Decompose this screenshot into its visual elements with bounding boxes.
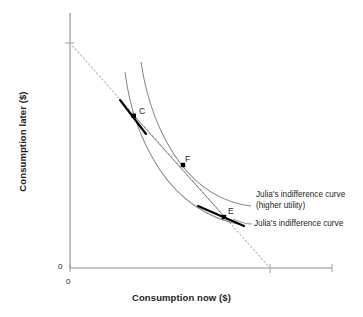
x-axis-origin-label: 0	[66, 277, 70, 286]
x-axis-title: Consumption now ($)	[0, 292, 363, 303]
tangent-segment-e	[198, 206, 244, 226]
chord-line-c-f-e	[136, 118, 231, 224]
point-label-c: C	[139, 106, 145, 116]
indifference-curve-figure: Consumption now ($) Consumption later ($…	[0, 0, 363, 317]
annotation-higher-utility-line2: (higher utility)	[256, 201, 305, 210]
y-axis-origin-label: 0	[58, 262, 62, 271]
annotation-higher-utility-curve: Julia's indifference curve (higher utili…	[256, 190, 345, 211]
point-label-e: E	[228, 206, 234, 216]
indifference-curve-lower	[125, 72, 238, 224]
plot-area	[0, 0, 363, 317]
annotation-higher-utility-line1: Julia's indifference curve	[256, 190, 345, 199]
point-marker-e	[222, 215, 226, 219]
point-marker-c	[132, 114, 136, 118]
annotation-lower-curve: Julia's indifference curve	[254, 219, 343, 230]
point-label-f: F	[185, 154, 190, 164]
y-axis-title: Consumption later ($)	[17, 62, 28, 222]
